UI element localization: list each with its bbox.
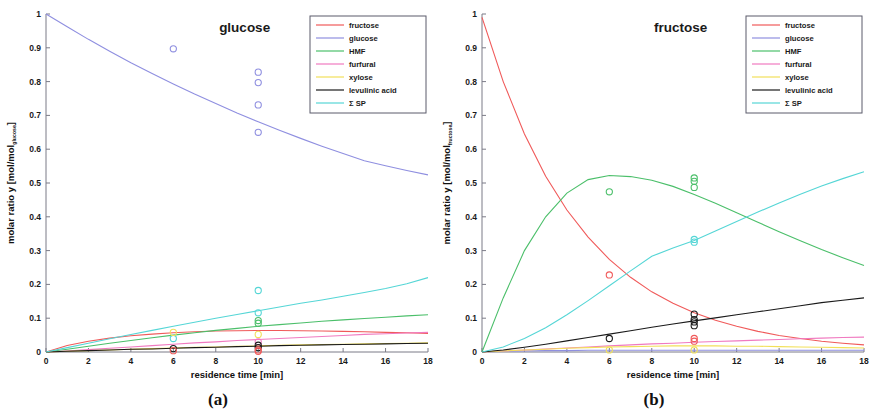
y-axis-title-main: molar ratio y [mol/mol: [5, 145, 16, 244]
curve-HMF: [482, 176, 864, 352]
x-tick-label: 10: [253, 356, 263, 366]
x-axis-title: residence time [min]: [191, 369, 283, 380]
legend-label-fructose: fructose: [349, 21, 379, 30]
legend-label-furfural: furfural: [785, 60, 812, 69]
x-tick-label: 14: [338, 356, 348, 366]
plot-title: fructose: [654, 20, 708, 35]
y-tick-label: 0.9: [29, 43, 41, 53]
data-point-fructose: [606, 272, 612, 278]
y-tick-label: 0.8: [465, 77, 477, 87]
legend-label-Σ-SP: Σ SP: [785, 99, 802, 108]
x-tick-label: 8: [213, 356, 218, 366]
legend-label-Σ-SP: Σ SP: [349, 99, 366, 108]
x-tick-label: 18: [423, 356, 433, 366]
y-tick-label: 0.9: [465, 43, 477, 53]
y-axis-title-close: ]: [5, 122, 16, 125]
legend-label-HMF: HMF: [785, 47, 802, 56]
data-point-HMF: [606, 189, 612, 195]
legend-label-HMF: HMF: [349, 47, 366, 56]
curve-Σ-SP: [482, 172, 864, 352]
y-tick-label: 0.3: [465, 246, 477, 256]
y-tick-label: 0.4: [29, 212, 41, 222]
y-tick-label: 0.1: [465, 313, 477, 323]
curve-furfural: [46, 332, 428, 352]
chart-glucose: 02468101214161800.10.20.30.40.50.60.70.8…: [0, 0, 436, 392]
x-tick-label: 4: [565, 356, 570, 366]
chart-fructose: 02468101214161800.10.20.30.40.50.60.70.8…: [436, 0, 872, 392]
y-tick-label: 0: [36, 347, 41, 357]
panel-a-glucose: 02468101214161800.10.20.30.40.50.60.70.8…: [0, 0, 436, 412]
y-tick-label: 0.6: [29, 144, 41, 154]
x-tick-label: 14: [774, 356, 784, 366]
data-point-Σ-SP: [170, 335, 176, 341]
data-point-levulinic-acid: [606, 335, 612, 341]
y-tick-label: 0.6: [465, 144, 477, 154]
x-axis-title: residence time [min]: [627, 369, 719, 380]
y-tick-label: 0.2: [29, 279, 41, 289]
x-tick-label: 18: [859, 356, 869, 366]
data-point-glucose: [255, 102, 261, 108]
x-tick-label: 6: [607, 356, 612, 366]
y-axis-title-text: molar ratio y [mol/molglucose]: [5, 122, 17, 244]
x-tick-label: 16: [817, 356, 827, 366]
data-point-Σ-SP: [255, 287, 261, 293]
subfigure-caption-a: (a): [0, 390, 436, 410]
y-tick-label: 0.5: [465, 178, 477, 188]
x-tick-label: 2: [86, 356, 91, 366]
x-tick-label: 0: [480, 356, 485, 366]
x-tick-label: 16: [381, 356, 391, 366]
legend-label-xylose: xylose: [349, 73, 373, 82]
y-tick-label: 1: [36, 9, 41, 19]
y-axis-title-close: ]: [441, 122, 452, 125]
data-point-glucose: [170, 46, 176, 52]
data-point-glucose: [255, 129, 261, 135]
curve-levulinic-acid: [482, 298, 864, 352]
plot-title: glucose: [219, 20, 271, 35]
y-axis-title: molar ratio y [mol/molfructose]: [441, 122, 453, 245]
data-point-levulinic-acid: [691, 323, 697, 329]
y-tick-label: 0.7: [465, 110, 477, 120]
legend-label-levulinic-acid: levulinic acid: [785, 86, 833, 95]
y-axis-title-text: molar ratio y [mol/molfructose]: [441, 122, 453, 245]
legend-label-furfural: furfural: [349, 60, 376, 69]
y-tick-label: 1: [472, 9, 477, 19]
x-tick-label: 12: [732, 356, 742, 366]
y-tick-label: 0.2: [465, 279, 477, 289]
x-tick-label: 4: [129, 356, 134, 366]
y-tick-label: 0.1: [29, 313, 41, 323]
x-tick-label: 12: [296, 356, 306, 366]
subfigure-caption-b: (b): [436, 390, 872, 410]
data-point-glucose: [255, 69, 261, 75]
data-point-HMF: [691, 184, 697, 190]
y-axis-title: molar ratio y [mol/molglucose]: [5, 122, 17, 244]
data-point-xylose: [255, 331, 261, 337]
x-tick-label: 0: [44, 356, 49, 366]
panel-b-fructose: 02468101214161800.10.20.30.40.50.60.70.8…: [436, 0, 872, 412]
y-tick-label: 0.3: [29, 246, 41, 256]
legend-label-glucose: glucose: [785, 34, 814, 43]
y-tick-label: 0.4: [465, 212, 477, 222]
y-tick-label: 0.8: [29, 77, 41, 87]
data-point-glucose: [255, 80, 261, 86]
x-tick-label: 2: [522, 356, 527, 366]
y-axis-title-main: molar ratio y [mol/mol: [441, 145, 452, 244]
x-tick-label: 8: [649, 356, 654, 366]
y-axis-title-sub: fructose: [447, 125, 453, 146]
legend-label-glucose: glucose: [349, 34, 378, 43]
y-tick-label: 0.5: [29, 178, 41, 188]
legend-label-levulinic-acid: levulinic acid: [349, 86, 397, 95]
legend-label-xylose: xylose: [785, 73, 809, 82]
y-tick-label: 0: [472, 347, 477, 357]
x-tick-label: 6: [171, 356, 176, 366]
y-tick-label: 0.7: [29, 110, 41, 120]
x-tick-label: 10: [689, 356, 699, 366]
figure-two-panel-kinetics: 02468101214161800.10.20.30.40.50.60.70.8…: [0, 0, 873, 412]
legend-label-fructose: fructose: [785, 21, 815, 30]
y-axis-title-sub: glucose: [11, 125, 17, 145]
